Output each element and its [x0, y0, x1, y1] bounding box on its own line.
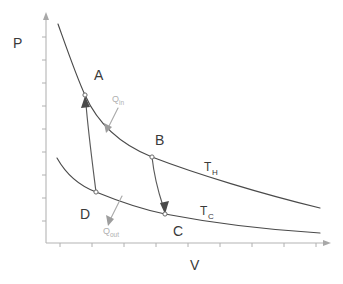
carnot-pv-diagram: P V A B C D T H T C Q in Q out	[0, 0, 343, 284]
isotherm-label-tc-main: T	[200, 204, 208, 218]
state-point-markers	[83, 93, 167, 216]
adiabat-curves	[81, 96, 169, 214]
pv-diagram-canvas: P V A B C D T H T C Q in Q out	[0, 0, 343, 284]
isotherm-tc-curve	[57, 158, 320, 233]
state-label-a: A	[94, 67, 104, 83]
y-axis-label: P	[13, 35, 22, 51]
heat-label-q-in-main: Q	[112, 94, 119, 104]
heat-label-q-out-subscript: out	[110, 231, 119, 238]
state-label-b: B	[155, 132, 164, 148]
isotherm-label-th: T H	[204, 160, 218, 177]
y-axis-ticks	[42, 37, 46, 221]
isotherm-curves	[57, 24, 320, 233]
state-point-a-marker	[83, 93, 87, 97]
isotherm-th-curve	[58, 24, 320, 208]
q-in-arrow-shaft	[108, 108, 118, 128]
isotherm-label-th-main: T	[204, 160, 212, 174]
isotherm-label-th-subscript: H	[212, 168, 218, 177]
state-label-c: C	[173, 223, 183, 239]
heat-label-q-in-subscript: in	[119, 99, 124, 106]
state-point-c-marker	[163, 212, 167, 216]
x-axis-label: V	[190, 257, 200, 273]
heat-label-q-in: Q in	[112, 94, 124, 106]
state-point-d-marker	[94, 190, 98, 194]
x-axis-arrowhead	[323, 240, 331, 246]
x-axis-ticks	[60, 243, 316, 247]
isotherm-label-tc-subscript: C	[208, 212, 214, 221]
heat-label-q-out: Q out	[103, 226, 119, 238]
heat-flow-annotations	[104, 108, 122, 226]
state-label-d: D	[80, 206, 90, 222]
heat-label-q-out-main: Q	[103, 226, 110, 236]
isotherm-label-tc: T C	[200, 204, 214, 221]
q-out-arrowhead	[106, 215, 114, 226]
y-axis-arrowhead	[43, 12, 49, 20]
state-point-b-marker	[150, 155, 154, 159]
adiabat-b-to-c	[152, 157, 163, 206]
adiabat-d-to-a	[86, 104, 96, 192]
